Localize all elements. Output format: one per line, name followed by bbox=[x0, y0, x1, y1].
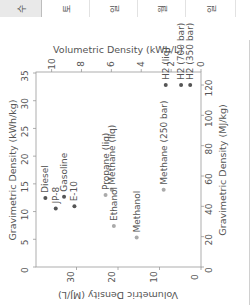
top-tick-label: 10 bbox=[47, 58, 57, 70]
data-point bbox=[72, 204, 76, 208]
data-point bbox=[54, 207, 58, 211]
left-axis-title: Gravimetric Density (kWh/kg) bbox=[7, 99, 18, 240]
left-tick-label: 0 bbox=[20, 267, 30, 273]
left-tick-label: 30 bbox=[20, 98, 30, 110]
data-point bbox=[112, 224, 116, 228]
bottom-tick-label: 20 bbox=[107, 271, 117, 283]
point-label: E-10 bbox=[69, 181, 79, 202]
point-label: Diesel bbox=[40, 165, 50, 193]
energy-density-chart: 05101520253035Gravimetric Density (kWh/k… bbox=[0, 0, 252, 305]
data-point bbox=[179, 83, 183, 87]
point-label: Methane (250 bar) bbox=[159, 100, 169, 184]
left-tick-label: 35 bbox=[20, 70, 30, 81]
right-tick-label: 80 bbox=[204, 143, 214, 155]
left-tick-label: 25 bbox=[20, 126, 30, 137]
data-point bbox=[188, 83, 192, 87]
point-label: H2 (liq) bbox=[161, 47, 171, 80]
bottom-tick-label: 10 bbox=[149, 271, 159, 283]
bottom-tick-label: 30 bbox=[66, 271, 76, 283]
right-tick-label: 100 bbox=[204, 109, 214, 126]
data-point bbox=[104, 193, 108, 197]
point-label: Methane (liq) bbox=[107, 125, 117, 185]
right-tick-label: 120 bbox=[204, 79, 214, 96]
data-point bbox=[62, 195, 66, 199]
point-label: Gasoline bbox=[59, 152, 69, 191]
data-point bbox=[162, 188, 166, 192]
left-tick-label: 15 bbox=[20, 181, 30, 192]
point-label: Methanol bbox=[132, 191, 142, 233]
left-tick-label: 5 bbox=[20, 239, 30, 245]
bottom-axis-title: Volumetric Density (MJ/L) bbox=[58, 290, 178, 301]
left-tick-label: 20 bbox=[20, 153, 30, 165]
right-axis-title: Gravimetric Density (MJ/kg) bbox=[217, 104, 228, 235]
right-tick-label: 20 bbox=[204, 234, 214, 246]
bottom-tick-label: 0 bbox=[190, 274, 200, 280]
top-tick-label: 0 bbox=[196, 61, 206, 67]
top-tick-label: 4 bbox=[136, 61, 146, 67]
point-label: Ethanol bbox=[109, 187, 119, 221]
top-tick-label: 6 bbox=[106, 61, 116, 67]
data-point bbox=[135, 235, 139, 239]
top-tick-label: 8 bbox=[76, 61, 86, 67]
right-tick-label: 0 bbox=[204, 267, 214, 273]
left-tick-label: 10 bbox=[20, 209, 30, 221]
data-point bbox=[43, 196, 47, 200]
point-label: H2 (350 bar) bbox=[185, 23, 195, 80]
right-tick-label: 60 bbox=[204, 173, 214, 185]
right-tick-label: 40 bbox=[204, 203, 214, 215]
data-point bbox=[164, 83, 168, 87]
